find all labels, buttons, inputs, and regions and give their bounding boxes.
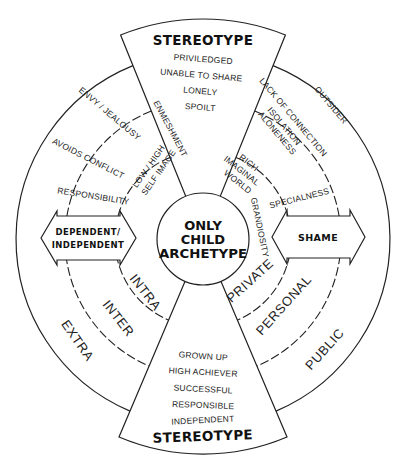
left-item-responsibility: RESPONSIBILITY <box>57 185 131 206</box>
right-item-outsider: OUTSIDER <box>313 84 350 125</box>
center-title-line-3: ARCHETYPE <box>159 246 247 261</box>
center-title-line-2: CHILD <box>181 232 226 247</box>
center-title-line-1: ONLY <box>184 218 222 233</box>
ring-label-personal: PERSONAL <box>253 272 315 338</box>
dependent-independent-arrow <box>41 211 136 265</box>
only-child-archetype-diagram: STEREOTYPE PRIVILEDGED UNABLE TO SHARE L… <box>0 0 405 470</box>
ring-label-extra: EXTRA <box>58 317 97 364</box>
right-item-specialness: SPECIALNESS <box>268 186 330 211</box>
left-item-avoids-conflict: AVOIDS CONFLICT <box>51 136 126 181</box>
shame-label: SHAME <box>298 232 338 243</box>
dependent-label: DEPENDENT/ <box>56 227 121 237</box>
left-item-envy-jealousy: ENVY / JEALOUSY <box>77 85 143 143</box>
right-item-grandiosity: GRANDIOSITY <box>249 197 271 259</box>
independent-label: INDEPENDENT <box>52 240 124 250</box>
top-stereotype-title: STEREOTYPE <box>153 32 253 48</box>
ring-label-inter: INTER <box>100 297 138 339</box>
